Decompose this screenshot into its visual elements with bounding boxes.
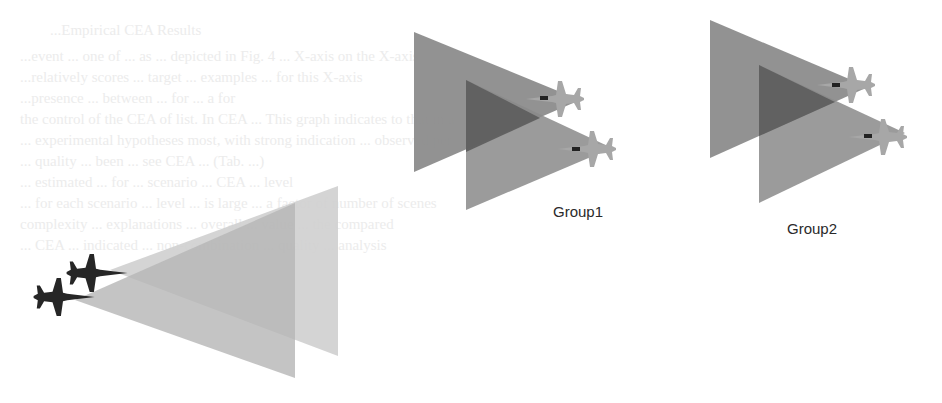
friendly-sensor-cone-front [75,203,295,378]
friendly-formation [34,186,338,378]
group1-jet-2-canopy [572,147,580,151]
group1-formation [414,32,616,210]
group2-jet-2-canopy [864,134,872,138]
group2-label: Group2 [787,220,837,237]
group1-jet-1-canopy [540,96,548,100]
group1-label: Group1 [553,203,603,220]
group2-jet-1-canopy [832,83,840,87]
friendly-jet-2-icon [34,278,95,316]
group2-formation [710,20,907,203]
engagement-diagram [0,0,942,403]
